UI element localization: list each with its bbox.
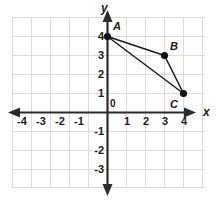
- vertex-label-a: A: [113, 21, 121, 32]
- y-axis-label: y: [101, 2, 108, 14]
- x-tick-label-neg4: -4: [14, 116, 30, 127]
- y-tick-label-1: 1: [90, 88, 104, 99]
- y-tick-label-neg2: -2: [86, 145, 104, 156]
- y-tick-label-4: 4: [90, 31, 104, 42]
- x-tick-label-neg2: -2: [52, 116, 68, 127]
- origin-label: 0: [110, 99, 116, 109]
- y-tick-label-neg1: -1: [86, 126, 104, 137]
- coordinate-plane-figure: x y 0 -4 -3 -2 -1 1 2 3 4 4 3 2 1 -1 -2 …: [0, 0, 218, 200]
- y-axis-arrow-down: [103, 184, 113, 196]
- vertex-a-point: [104, 33, 111, 40]
- y-tick-label-3: 3: [90, 50, 104, 61]
- vertex-label-b: B: [170, 41, 178, 52]
- x-tick-label-4: 4: [176, 116, 192, 127]
- x-axis-label: x: [203, 106, 210, 118]
- x-tick-label-3: 3: [157, 116, 173, 127]
- x-tick-label-neg1: -1: [71, 116, 87, 127]
- x-tick-label-neg3: -3: [33, 116, 49, 127]
- x-tick-label-2: 2: [138, 116, 154, 127]
- y-tick-label-2: 2: [90, 69, 104, 80]
- vertex-b-point: [161, 52, 168, 59]
- vertex-label-c: C: [170, 99, 178, 110]
- vertex-c-point: [180, 90, 187, 97]
- graph-canvas: [0, 0, 218, 200]
- y-tick-label-neg3: -3: [86, 164, 104, 175]
- edge-ab: [108, 37, 165, 56]
- x-tick-label-1: 1: [119, 116, 135, 127]
